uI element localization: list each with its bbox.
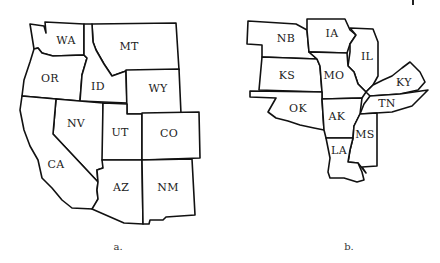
label-state: NM (157, 181, 179, 194)
caption-b: b. (344, 241, 354, 252)
label-state: TN (378, 97, 396, 110)
label-state: MT (119, 40, 138, 53)
partial-glyph (412, 0, 414, 5)
label-state: KS (279, 69, 295, 82)
label-state: AK (329, 110, 346, 123)
label-state: MS (355, 128, 374, 141)
label-state: NV (67, 117, 85, 130)
label-state: NB (277, 32, 295, 45)
label-state: WA (56, 34, 75, 47)
label-state: MO (324, 69, 345, 82)
label-state: CA (48, 158, 65, 171)
label-state: CO (160, 127, 178, 140)
label-state: IL (361, 50, 373, 63)
label-state: UT (111, 126, 128, 139)
label-state: OK (289, 102, 307, 115)
caption-a: a. (113, 241, 122, 252)
label-state: WY (148, 82, 167, 95)
label-state: AZ (113, 181, 129, 194)
label-state: IA (326, 27, 339, 40)
label-state: LA (331, 144, 347, 157)
state-ok (250, 91, 324, 130)
label-state: OR (41, 72, 59, 85)
map-central-states (247, 19, 428, 182)
label-state: KY (396, 76, 412, 89)
map-western-states (20, 22, 200, 224)
label-state: ID (91, 80, 105, 93)
